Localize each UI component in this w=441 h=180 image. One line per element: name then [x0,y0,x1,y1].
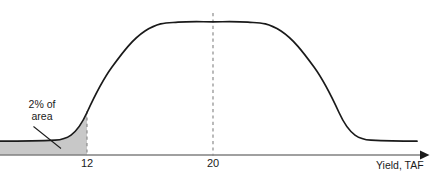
density-curve [0,22,417,142]
annotation-label: 2% of area [13,99,71,123]
x-tick-label-20: 20 [197,157,229,169]
yield-distribution-figure: 2% of area 12 20 Yield, TAF [0,0,441,180]
x-axis-title: Yield, TAF [376,160,424,172]
distribution-plot [0,0,441,180]
x-tick-label-12: 12 [71,157,103,169]
annotation-label-line1: 2% of [13,99,71,111]
annotation-label-line2: area [13,111,71,123]
